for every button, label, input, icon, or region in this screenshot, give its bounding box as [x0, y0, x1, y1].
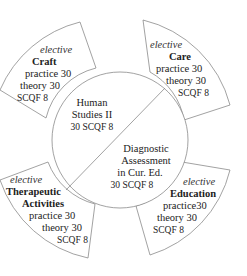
education-scqf: SCQF 8 — [153, 225, 184, 235]
core-lower-line3: in Cur. Ed. — [117, 167, 163, 178]
craft-scqf: SCQF 8 — [17, 93, 48, 103]
education-practice: practice30 — [163, 200, 207, 211]
core-upper-line1: Human — [77, 97, 109, 108]
craft-practice: practice 30 — [25, 68, 71, 79]
care-practice: practice 30 — [156, 63, 202, 74]
craft-tag: elective — [40, 44, 72, 55]
core-upper-line3: 30 SCQF 8 — [71, 122, 114, 132]
module-diagram: Human Studies II 30 SCQF 8 Diagnostic As… — [0, 0, 247, 276]
core-lower-line2: Assessment — [121, 155, 171, 166]
core-lower-line1: Diagnostic — [123, 143, 169, 154]
therapeutic-title-line2: Activities — [22, 198, 64, 209]
care-title: Care — [169, 51, 191, 62]
therapeutic-scqf: SCQF 8 — [57, 235, 88, 245]
therapeutic-title-line1: Therapeutic — [6, 186, 61, 197]
core-upper-line2: Studies II — [72, 109, 113, 120]
core-lower-line4: 30 SCQF 8 — [111, 180, 154, 190]
craft-theory: theory 30 — [20, 80, 60, 91]
therapeutic-theory: theory 30 — [42, 222, 82, 233]
care-tag: elective — [150, 39, 182, 50]
care-scqf: SCQF 8 — [178, 88, 209, 98]
therapeutic-tag: elective — [10, 174, 42, 185]
education-title: Education — [170, 188, 216, 199]
craft-title: Craft — [32, 56, 57, 67]
education-tag: elective — [183, 176, 215, 187]
education-theory: theory 30 — [157, 212, 197, 223]
care-theory: theory 30 — [166, 75, 206, 86]
therapeutic-practice: practice 30 — [29, 210, 75, 221]
